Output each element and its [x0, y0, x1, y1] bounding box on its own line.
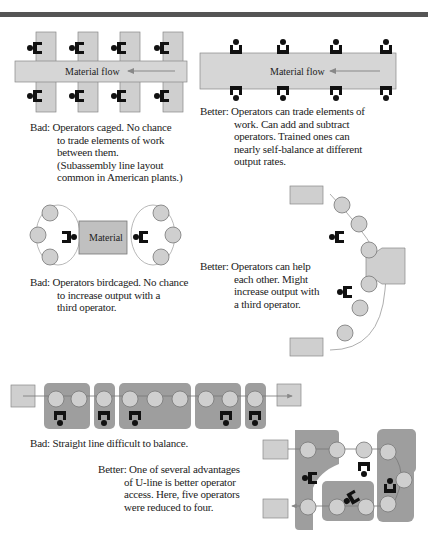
uline-layout — [263, 429, 417, 530]
trade-layout: Material flow — [200, 39, 396, 101]
straight-layout — [11, 383, 301, 429]
caption-birdcaged: Bad: Operators birdcaged. No chance to i… — [30, 276, 188, 314]
caption-straight: Bad: Straight line difficult to balance. — [30, 437, 188, 450]
flow-label-1: Material flow — [65, 66, 120, 77]
caption-caged: Bad: Operators caged. No chance to trade… — [30, 121, 182, 184]
caged-layout: Material flow — [15, 32, 187, 112]
caption-uline: Better: One of several advantages of U-l… — [98, 463, 240, 513]
birdcaged-layout: Material — [30, 205, 181, 265]
svg-text:Material flow: Material flow — [270, 66, 325, 77]
caption-trade: Better: Operators can trade elements of … — [200, 105, 365, 168]
svg-text:Material: Material — [89, 232, 123, 243]
caption-arc: Better: Operators can help each other. M… — [200, 260, 319, 310]
